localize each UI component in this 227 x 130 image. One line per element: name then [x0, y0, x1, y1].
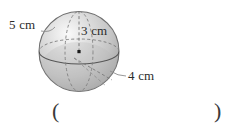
answer-open-paren: (	[52, 100, 59, 122]
sphere-figure-panel: 5 cm 3 cm 4 cm ( )	[0, 0, 227, 130]
label-base-4cm: 4 cm	[128, 69, 154, 82]
center-dot	[77, 50, 80, 53]
answer-close-paren: )	[214, 100, 221, 122]
label-height-3cm: 3 cm	[81, 24, 107, 37]
label-slant-5cm: 5 cm	[9, 18, 35, 31]
